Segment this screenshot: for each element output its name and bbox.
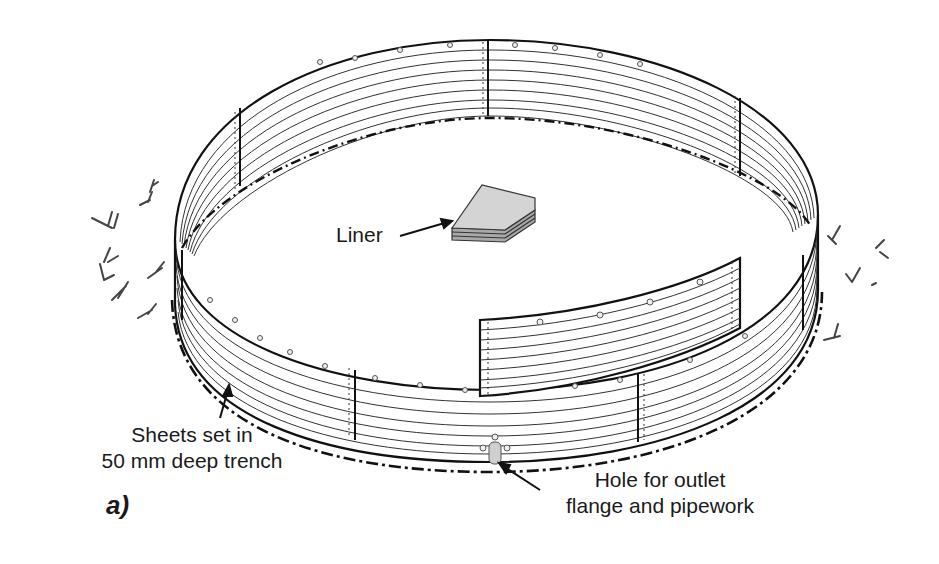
figure-label: a) <box>106 490 129 521</box>
outlet-label: Hole for outlet flange and pipework <box>540 467 780 519</box>
trench-label: Sheets set in 50 mm deep trench <box>72 422 312 474</box>
tank-diagram: Liner Sheets set in 50 mm deep trench Ho… <box>0 0 939 564</box>
loose-sheet-panel <box>480 258 740 396</box>
outlet-label-line2: flange and pipework <box>540 493 780 519</box>
outlet-flange <box>480 434 510 464</box>
liner-stack <box>452 185 535 242</box>
trench-label-line2: 50 mm deep trench <box>72 448 312 474</box>
tank-drawing <box>0 0 939 564</box>
liner-label: Liner <box>336 222 383 248</box>
trench-label-line1: Sheets set in <box>72 422 312 448</box>
outlet-label-line1: Hole for outlet <box>540 467 780 493</box>
